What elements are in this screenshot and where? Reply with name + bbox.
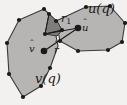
label-u-hat: uˆ bbox=[82, 23, 88, 33]
point-u-hat-marker bbox=[75, 25, 82, 32]
vertex-dot bbox=[76, 49, 80, 53]
vertex-dot bbox=[106, 48, 110, 52]
v-hat-glyph: vˆ bbox=[29, 44, 35, 54]
vertex-dot bbox=[123, 21, 127, 25]
vertex-dot bbox=[21, 95, 25, 99]
point-v-hat-marker bbox=[41, 48, 48, 55]
hat-accent-icon: ˆ bbox=[83, 18, 88, 28]
label-r-hat: rˆ bbox=[54, 45, 59, 55]
vertex-dot bbox=[47, 12, 51, 16]
vertex-dot bbox=[17, 18, 21, 22]
label-u-of-q: u(q) bbox=[88, 2, 115, 15]
r-hat-glyph: rˆ bbox=[54, 45, 59, 55]
geometric-figure: u(q) v(q) r1 uˆ vˆ rˆ bbox=[0, 0, 127, 105]
vertex-dot bbox=[5, 41, 9, 45]
u-hat-glyph: uˆ bbox=[82, 23, 88, 33]
label-v-of-q: v(q) bbox=[35, 72, 61, 85]
vertex-dot bbox=[60, 28, 64, 32]
vertex-dot bbox=[54, 19, 58, 23]
label-r-subscript-1: r1 bbox=[61, 13, 71, 26]
label-r1-subscript: 1 bbox=[66, 17, 71, 26]
vertex-dot bbox=[43, 32, 47, 36]
label-v-hat: vˆ bbox=[29, 44, 35, 54]
hat-accent-icon: ˆ bbox=[54, 40, 59, 50]
vertex-dot bbox=[7, 72, 11, 76]
vertex-dot bbox=[48, 66, 52, 70]
hat-accent-icon: ˆ bbox=[29, 39, 34, 49]
vertex-dot bbox=[120, 40, 124, 44]
vertex-dot bbox=[42, 7, 46, 11]
